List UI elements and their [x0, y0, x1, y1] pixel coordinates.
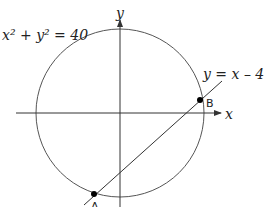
point-b	[197, 97, 203, 103]
circle-line-diagram: x² + y² = 40 y = x – 4 x y B A	[0, 0, 271, 207]
point-b-label: B	[206, 97, 214, 110]
point-a-label: A	[91, 200, 99, 207]
circle-equation-label: x² + y² = 40	[2, 27, 88, 43]
y-axis-label: y	[115, 5, 125, 21]
x-axis-label: x	[225, 106, 233, 122]
line-equation-label: y = x – 4	[202, 66, 264, 82]
point-a	[91, 191, 97, 197]
